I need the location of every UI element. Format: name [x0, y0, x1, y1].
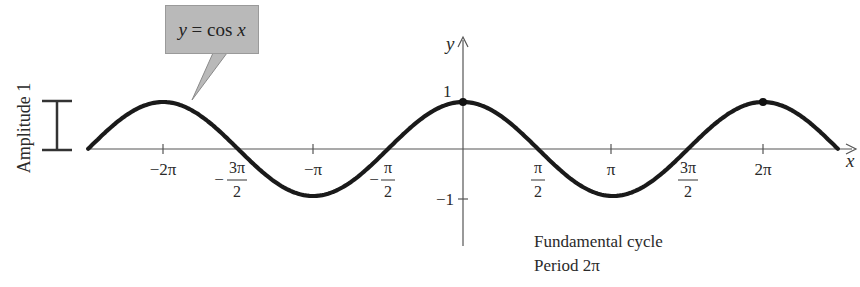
y-tick-label-1: 1 — [443, 82, 452, 101]
x-tick-label-pi2-num: π — [534, 159, 542, 176]
x-tick-label-neg2pi: −2π — [150, 160, 177, 179]
cosine-chart: y x 1 −1 −2π − 3π 2 −π − π 2 π 2 π 3π 2 … — [0, 0, 860, 287]
point-0-1 — [459, 98, 467, 106]
x-tick-label-3pi2-den: 2 — [684, 183, 692, 200]
x-tick-neg-sign: − — [214, 170, 224, 189]
x-tick-label-pi: π — [607, 160, 616, 179]
period-label: Period 2π — [534, 256, 600, 276]
callout-lhs: y — [178, 19, 186, 41]
y-axis-label: y — [444, 33, 455, 54]
x-tick-label-negpi2-num: π — [384, 159, 392, 176]
x-tick-label-neg3pi2-den: 2 — [233, 183, 241, 200]
x-tick-label-2pi: 2π — [754, 160, 772, 179]
x-tick-label-negpi2-den: 2 — [384, 183, 392, 200]
callout-eq: = cos — [187, 19, 237, 41]
x-tick-label-negpi: −π — [304, 160, 323, 179]
amplitude-label: Amplitude 1 — [14, 83, 35, 174]
x-tick-label-pi2-den: 2 — [534, 183, 542, 200]
amplitude-bracket-icon — [42, 101, 72, 150]
callout-rhs: x — [237, 19, 245, 41]
fundamental-cycle-label: Fundamental cycle — [534, 232, 663, 252]
x-tick-label-neg3pi2-num: 3π — [229, 159, 245, 176]
y-tick-label-neg1: −1 — [436, 190, 454, 209]
x-tick-label-3pi2-num: 3π — [680, 159, 696, 176]
point-2pi-1 — [759, 98, 767, 106]
x-tick-neg-sign: − — [369, 170, 379, 189]
x-axis-label: x — [845, 150, 855, 171]
function-callout: y = cos x — [165, 5, 259, 54]
